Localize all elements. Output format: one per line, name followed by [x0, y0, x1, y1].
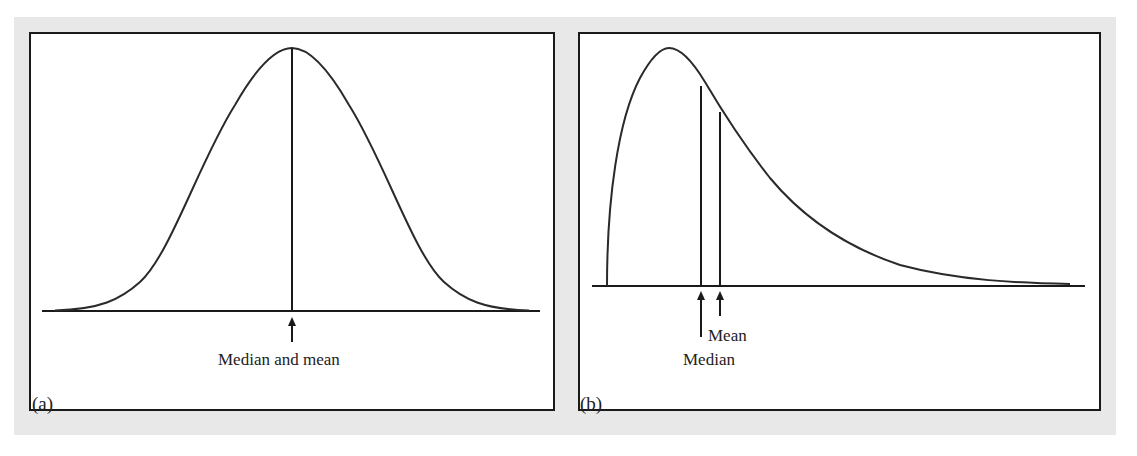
mean-arrow-up-icon — [716, 291, 724, 316]
panel-b-caption: (b) — [580, 393, 602, 415]
panel-a-caption: (a) — [32, 393, 53, 415]
median-label: Median — [683, 350, 735, 370]
mean-label: Mean — [708, 326, 747, 346]
median-and-mean-label: Median and mean — [218, 350, 340, 370]
arrow-up-icon — [288, 317, 296, 342]
median-arrow-up-icon — [697, 291, 705, 337]
panel-b-skewed-curve — [607, 48, 1070, 286]
panel-a-plot — [42, 48, 540, 342]
panel-b-plot — [592, 48, 1085, 337]
distribution-plots — [0, 0, 1137, 456]
